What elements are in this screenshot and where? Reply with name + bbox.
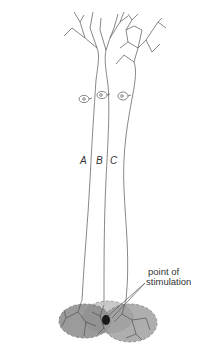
cell-body-a: [79, 95, 92, 102]
label-neuron-c: C: [110, 156, 117, 166]
stimulation-callout: point of stimulation: [146, 267, 191, 288]
cell-body-c: [118, 92, 131, 100]
cell-bodies: [79, 91, 131, 102]
axons: [82, 80, 134, 305]
callout-line-2: stimulation: [146, 277, 191, 287]
axon-c: [124, 88, 134, 300]
label-neuron-a: A: [80, 156, 87, 166]
receptive-fields: [59, 300, 157, 342]
axon-a: [82, 80, 96, 300]
neuron-receptive-field-diagram: [0, 0, 205, 354]
label-neuron-b: B: [96, 156, 103, 166]
axon-b: [104, 85, 109, 305]
stimulation-point: [102, 315, 110, 325]
cell-body-b: [97, 91, 110, 98]
dendritic-tree: [64, 12, 166, 88]
